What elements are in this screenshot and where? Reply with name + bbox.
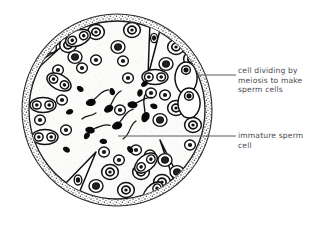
elongated-spermatid xyxy=(178,88,200,118)
immature-sperm-cell-label: immature sperm cell xyxy=(238,131,322,150)
cell-dividing-by-meiosis-label: cell dividing by meiosis to make sperm c… xyxy=(238,66,322,95)
seminiferous-tubule-diagram xyxy=(0,0,324,227)
